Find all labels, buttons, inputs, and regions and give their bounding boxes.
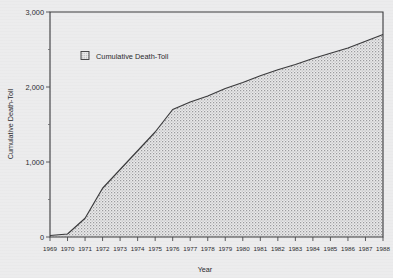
- x-tick-label: 1979: [218, 245, 232, 252]
- y-tick-label: 2,000: [26, 83, 45, 92]
- x-tick-label: 1984: [306, 245, 320, 252]
- x-tick-label: 1987: [359, 245, 373, 252]
- x-tick-label: 1981: [253, 245, 267, 252]
- legend-label-cumulative-death-toll: Cumulative Death-Toll: [96, 52, 169, 61]
- x-tick-label: 1973: [113, 245, 127, 252]
- x-tick-label: 1977: [183, 245, 197, 252]
- y-tick-label: 3,000: [26, 8, 45, 17]
- y-axis-title: Cumulative Death-Toll: [6, 88, 15, 159]
- x-tick-label: 1986: [341, 245, 355, 252]
- x-tick-label: 1988: [376, 245, 390, 252]
- x-tick-label: 1980: [236, 245, 250, 252]
- x-tick-label: 1975: [148, 245, 162, 252]
- x-tick-label: 1974: [131, 245, 145, 252]
- y-tick-label: 0: [40, 233, 44, 242]
- x-tick-label: 1970: [61, 245, 75, 252]
- legend-swatch-icon: [81, 52, 89, 60]
- x-tick-label: 1972: [96, 245, 110, 252]
- x-tick-label: 1971: [78, 245, 92, 252]
- x-tick-label: 1978: [201, 245, 215, 252]
- plot-area: [50, 12, 383, 237]
- x-axis-title: Year: [198, 265, 213, 274]
- cumulative-death-toll-chart: 01,0002,0003,000 19691970197119721973197…: [0, 0, 393, 278]
- x-tick-label: 1982: [271, 245, 285, 252]
- x-tick-label: 1985: [324, 245, 338, 252]
- x-tick-label: 1969: [43, 245, 57, 252]
- x-tick-label: 1976: [166, 245, 180, 252]
- y-tick-label: 1,000: [26, 158, 45, 167]
- x-tick-label: 1983: [288, 245, 302, 252]
- chart-figure: 01,0002,0003,000 19691970197119721973197…: [0, 0, 393, 278]
